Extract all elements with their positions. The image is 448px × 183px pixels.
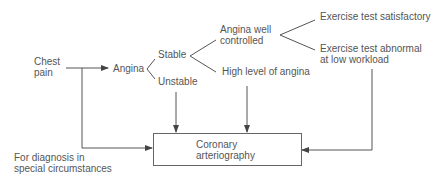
exercise-abnormal-line1: Exercise test abnormal	[320, 43, 422, 54]
node-unstable: Unstable	[158, 76, 197, 87]
special-line2: special circumstances	[14, 163, 112, 174]
node-angina: Angina	[113, 63, 144, 74]
exercise-abnormal-line2: at low workload	[320, 54, 422, 65]
chest-pain-line2: pain	[34, 67, 60, 78]
node-angina-well-controlled: Angina well controlled	[220, 24, 271, 46]
coronary-line1: Coronary	[196, 139, 255, 150]
node-high-level-angina: High level of angina	[222, 66, 310, 77]
node-special-circumstances: For diagnosis in special circumstances	[14, 152, 112, 174]
special-line1: For diagnosis in	[14, 152, 112, 163]
node-exercise-abnormal: Exercise test abnormal at low workload	[320, 43, 422, 65]
angina-well-controlled-line1: Angina well	[220, 24, 271, 35]
node-chest-pain: Chest pain	[34, 56, 60, 78]
angina-well-controlled-line2: controlled	[220, 35, 271, 46]
coronary-line2: arteriography	[196, 150, 255, 161]
node-stable: Stable	[158, 49, 186, 60]
node-exercise-satisfactory: Exercise test satisfactory	[320, 11, 431, 22]
chest-pain-line1: Chest	[34, 56, 60, 67]
node-coronary-arteriography: Coronary arteriography	[196, 139, 255, 161]
